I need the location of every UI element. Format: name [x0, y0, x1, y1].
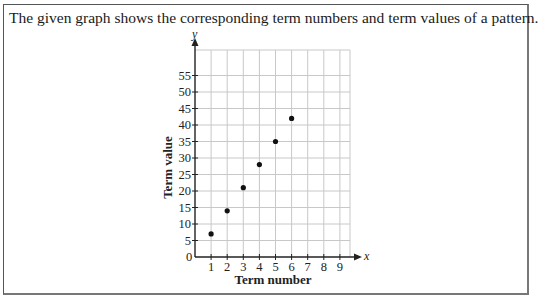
y-tick-label: 25: [179, 168, 192, 182]
y-tick-label: 35: [179, 135, 192, 149]
x-axis-symbol: x: [363, 249, 370, 263]
data-point: [225, 208, 230, 213]
x-tick-label: 1: [208, 260, 214, 274]
y-tick-label: 50: [179, 85, 192, 99]
y-tick-label: 30: [179, 151, 192, 165]
data-point: [257, 162, 262, 167]
y-tick-label: 40: [179, 118, 192, 132]
y-axis-symbol: y: [191, 27, 198, 41]
y-tick-label: 10: [179, 217, 192, 231]
y-tick-label: 55: [179, 69, 192, 83]
data-point: [209, 231, 214, 236]
y-tick-label: 15: [179, 201, 192, 215]
x-tick-label: 8: [321, 260, 327, 274]
x-axis-label: Term number: [234, 272, 311, 287]
data-point: [273, 139, 278, 144]
data-point: [289, 116, 294, 121]
y-tick-label: 45: [179, 102, 192, 116]
data-point: [241, 185, 246, 190]
x-axis-arrow-icon: [354, 254, 362, 261]
y-tick-label: 5: [185, 234, 191, 248]
x-tick-label: 2: [224, 260, 230, 274]
y-axis-label: Term value: [160, 136, 175, 199]
y-tick-label: 20: [179, 184, 192, 198]
origin-label: 0: [186, 250, 192, 264]
x-tick-label: 9: [337, 260, 343, 274]
